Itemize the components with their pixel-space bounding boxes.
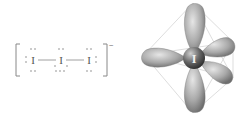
orbital-diagram: I (130, 0, 243, 117)
lobe-upper-right (200, 38, 235, 57)
charge-label: − (109, 41, 114, 50)
right-bracket (103, 44, 107, 76)
lobe-lower-right (200, 61, 233, 84)
lobe-bottom (184, 62, 205, 113)
left-bracket (16, 44, 20, 76)
atom-left: I (31, 54, 35, 66)
atom-center: I (59, 54, 63, 66)
atom-right: I (87, 54, 91, 66)
central-atom-label: I (192, 52, 197, 66)
lewis-structure: − I I I (0, 0, 130, 117)
